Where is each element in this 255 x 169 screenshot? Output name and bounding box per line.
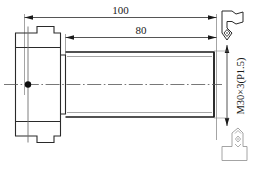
drawing-sheet: 100 80	[0, 0, 255, 169]
surface-roughness-symbol-bottom	[222, 128, 247, 161]
arrow-right-80	[208, 35, 217, 40]
surface-roughness-symbol-top	[222, 11, 243, 40]
roughness-flag-outline-top	[222, 11, 243, 40]
dimension-100-group: 100	[25, 4, 217, 141]
roughness-outline-bottom	[222, 128, 247, 161]
roughness-dot-bottom	[237, 138, 238, 139]
thread-spec-label: M30×3(P1.5)	[235, 57, 247, 114]
arrow-right-100	[208, 15, 217, 20]
thread-dimension-group: M30×3(P1.5)	[214, 45, 247, 126]
center-bore-mark	[25, 81, 31, 87]
thread-arrow-top	[225, 45, 230, 53]
arrow-left-80	[66, 35, 75, 40]
dimension-80-group: 80	[66, 24, 217, 59]
thread-arrow-bottom	[225, 118, 230, 126]
dimension-label-100: 100	[112, 4, 129, 16]
dimension-label-80: 80	[136, 24, 148, 36]
footer-caption	[0, 159, 255, 169]
technical-drawing-canvas: 100 80	[0, 0, 255, 169]
arrow-left-100	[25, 15, 34, 20]
roughness-dot-top	[226, 32, 228, 34]
center-hole-dot	[25, 81, 31, 87]
